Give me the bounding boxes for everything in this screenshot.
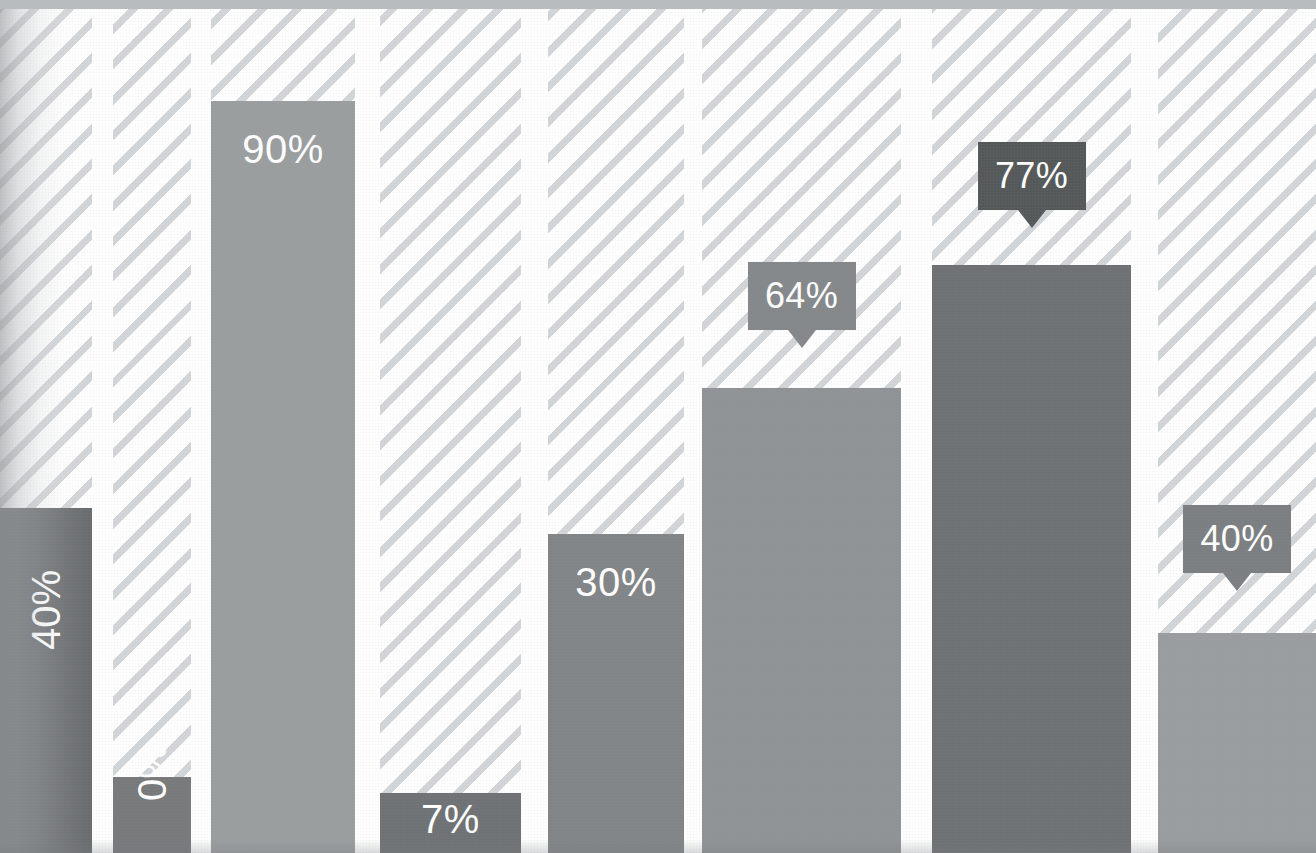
bar-value-callout: 40%	[1183, 505, 1291, 589]
bar-value-label-rotated: 40%	[26, 570, 66, 650]
bar-track-hatched	[113, 8, 191, 853]
bar-fill[interactable]	[932, 265, 1131, 853]
callout-tail-icon	[788, 330, 816, 348]
callout-bubble-label: 64%	[748, 262, 856, 330]
callout-tail-icon	[1018, 210, 1046, 228]
callout-bubble-label: 40%	[1183, 505, 1291, 573]
bar-value-label-rotated: 0%	[132, 743, 172, 801]
bar-fill[interactable]: 90%	[211, 101, 355, 853]
bar-value-callout: 64%	[748, 262, 856, 346]
bar-value-label: 90%	[211, 129, 355, 169]
bar-fill[interactable]: 7%	[380, 793, 521, 853]
plot-area: 40%0%90%7%30%64%77%40%	[0, 0, 1316, 853]
bar-fill[interactable]: 40%	[0, 508, 92, 853]
bar-fill[interactable]	[1158, 633, 1316, 853]
bar-column[interactable]: 0%	[113, 8, 191, 853]
bar-column[interactable]: 90%	[211, 8, 355, 853]
top-edge-band	[0, 0, 1316, 9]
bar-chart: 40%0%90%7%30%64%77%40%	[0, 0, 1316, 853]
bar-column[interactable]: 40%	[1158, 8, 1316, 853]
callout-tail-icon	[1223, 573, 1251, 591]
callout-bubble-label: 77%	[978, 142, 1086, 210]
bar-value-callout: 77%	[978, 142, 1086, 226]
bar-track-hatched	[380, 8, 521, 853]
bar-column[interactable]: 7%	[380, 8, 521, 853]
bar-column[interactable]: 77%	[932, 8, 1131, 853]
bar-column[interactable]: 30%	[548, 8, 684, 853]
bar-fill[interactable]	[702, 388, 901, 853]
bar-value-label: 30%	[548, 562, 684, 602]
bar-fill[interactable]: 0%	[113, 777, 191, 853]
bar-column[interactable]: 64%	[702, 8, 901, 853]
bar-fill[interactable]: 30%	[548, 534, 684, 853]
bar-column[interactable]: 40%	[0, 8, 92, 853]
bar-value-label: 7%	[380, 799, 521, 839]
